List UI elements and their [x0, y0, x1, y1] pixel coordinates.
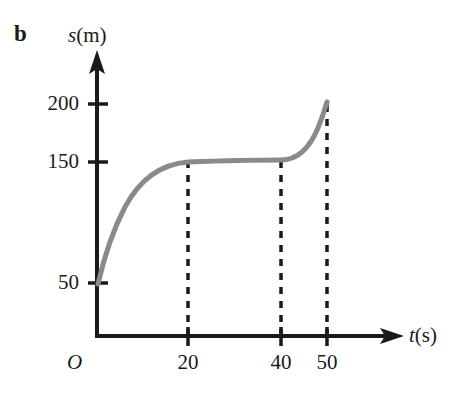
y-tick-label-200: 200 — [31, 93, 79, 114]
x-tick-label-50: 50 — [303, 352, 351, 373]
displacement-curve — [98, 102, 327, 284]
plot-canvas — [0, 0, 461, 393]
figure-panel: b s(m) t(s) O 200 150 50 20 40 50 — [0, 0, 461, 393]
y-tick-label-50: 50 — [31, 272, 79, 293]
x-tick-label-40: 40 — [257, 352, 305, 373]
y-tick-label-150: 150 — [31, 151, 79, 172]
x-tick-label-20: 20 — [164, 352, 212, 373]
